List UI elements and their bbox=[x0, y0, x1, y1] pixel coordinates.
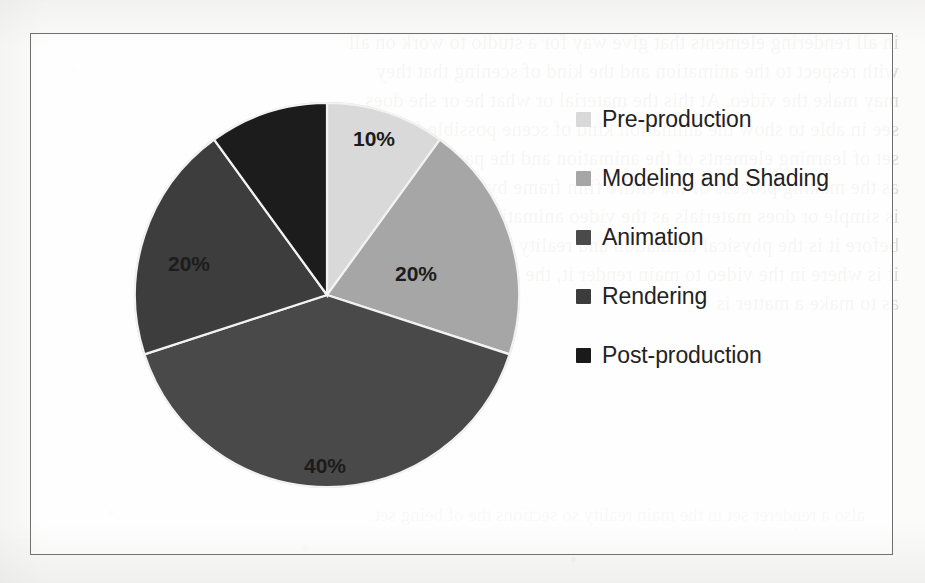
legend-item-modeling-and-shading[interactable]: Modeling and Shading bbox=[576, 165, 876, 192]
pie-chart-svg: 10% 20% 40% 20% bbox=[133, 101, 521, 489]
slice-label-rendering: 20% bbox=[168, 252, 210, 275]
legend-item-rendering[interactable]: Rendering bbox=[576, 283, 876, 310]
legend-swatch-rendering bbox=[576, 289, 591, 304]
legend-item-pre-production[interactable]: Pre-production bbox=[576, 106, 876, 133]
slice-label-modeling-and-shading: 20% bbox=[395, 262, 437, 285]
pie-chart: 10% 20% 40% 20% bbox=[133, 101, 521, 489]
legend-label-animation: Animation bbox=[602, 224, 703, 251]
slice-label-pre-production: 10% bbox=[353, 127, 395, 150]
legend-swatch-post-production bbox=[576, 348, 591, 363]
legend-label-rendering: Rendering bbox=[602, 283, 707, 310]
legend-label-modeling-and-shading: Modeling and Shading bbox=[602, 165, 829, 192]
scanned-page-background: in all rendering elements that give way … bbox=[0, 0, 925, 583]
legend-swatch-animation bbox=[576, 230, 591, 245]
legend-swatch-modeling-and-shading bbox=[576, 171, 591, 186]
slice-label-animation: 40% bbox=[304, 454, 346, 477]
chart-frame: 10% 20% 40% 20% Pre-production Modeling … bbox=[30, 33, 893, 555]
chart-legend: Pre-production Modeling and Shading Anim… bbox=[576, 106, 876, 369]
legend-item-animation[interactable]: Animation bbox=[576, 224, 876, 251]
legend-label-post-production: Post-production bbox=[602, 342, 762, 369]
pie-slices bbox=[135, 103, 519, 487]
legend-label-pre-production: Pre-production bbox=[602, 106, 751, 133]
legend-swatch-pre-production bbox=[576, 112, 591, 127]
legend-item-post-production[interactable]: Post-production bbox=[576, 342, 876, 369]
